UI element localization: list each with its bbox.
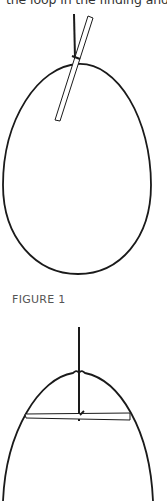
figure-illustrations bbox=[0, 0, 167, 501]
egg-figure-horizontal-needle bbox=[3, 327, 153, 501]
figure-caption: FIGURE 1 bbox=[12, 293, 66, 306]
egg-outline-1 bbox=[3, 64, 151, 274]
egg-figure-angled-needle bbox=[3, 14, 151, 274]
thread-1 bbox=[74, 14, 75, 58]
needle-horizontal-icon bbox=[25, 413, 130, 420]
